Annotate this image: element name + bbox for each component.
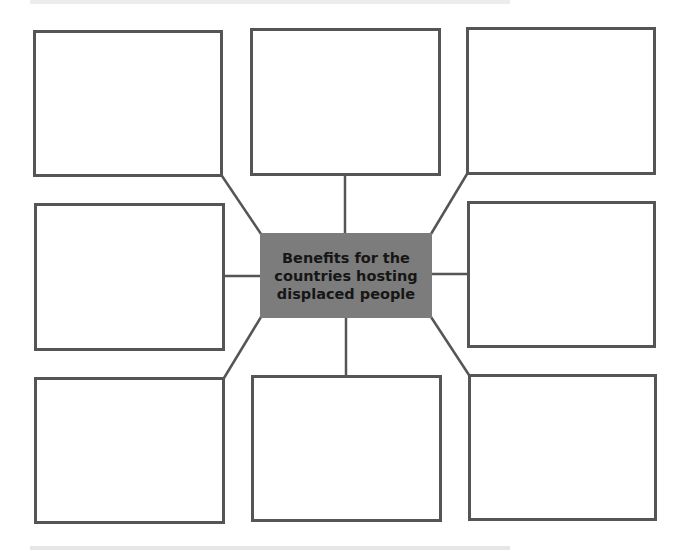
box-bottom-right[interactable] (468, 374, 657, 521)
box-top-right[interactable] (466, 27, 656, 175)
central-topic-box: Benefits for the countries hosting displ… (260, 233, 432, 318)
central-topic-label: Benefits for the countries hosting displ… (274, 249, 417, 303)
box-middle-right[interactable] (467, 201, 656, 348)
box-bottom-left[interactable] (34, 377, 225, 524)
connector-bottom-left (224, 317, 261, 378)
connector-top-right (431, 174, 467, 234)
connector-top-left (222, 176, 261, 234)
box-bottom-center[interactable] (251, 375, 442, 522)
box-middle-left[interactable] (34, 203, 225, 351)
box-top-left[interactable] (33, 30, 223, 177)
box-top-center[interactable] (250, 28, 441, 176)
connector-bottom-right (431, 317, 469, 375)
